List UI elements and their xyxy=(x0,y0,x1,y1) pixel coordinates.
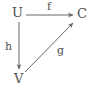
arrow-g-v-to-c xyxy=(25,23,73,72)
edge-label-f: f xyxy=(47,1,51,12)
edge-label-g: g xyxy=(57,45,64,56)
edge-label-h: h xyxy=(5,41,12,52)
node-label-c: C xyxy=(77,7,87,20)
node-label-u: U xyxy=(12,6,23,19)
node-label-v: V xyxy=(14,72,23,85)
commutative-diagram: U C V f h g xyxy=(0,0,92,92)
